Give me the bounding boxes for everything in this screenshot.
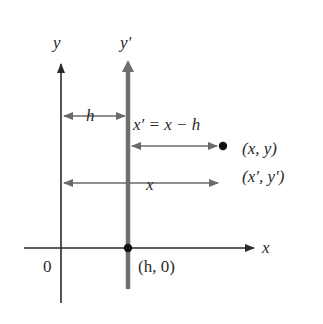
- x-distance-label: x: [145, 175, 154, 194]
- origin-label: 0: [43, 257, 52, 276]
- h-distance-label: h: [86, 106, 95, 125]
- xy-point: [219, 142, 227, 150]
- equation-label: x′ = x − h: [132, 115, 200, 134]
- y-axis-label: y: [51, 33, 61, 52]
- point-xy-label: (x, y): [242, 139, 277, 158]
- point-xpyp-label: (x′, y′): [242, 167, 285, 186]
- new-origin-point: [124, 244, 132, 252]
- x-axis-label: x: [261, 238, 270, 257]
- y-prime-axis-label: y′: [118, 33, 132, 52]
- translation-diagram: y y′ x 0 (h, 0) h x′ = x − h (x, y) (x′,…: [0, 0, 323, 324]
- new-origin-label: (h, 0): [138, 257, 175, 276]
